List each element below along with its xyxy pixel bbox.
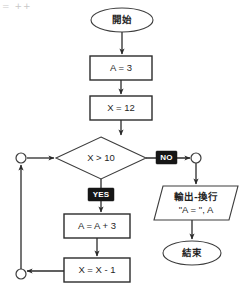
connector-loop-top-icon[interactable]: [16, 153, 26, 163]
start-label: 開始: [112, 14, 132, 25]
assign-x-label: X = 12: [107, 102, 135, 113]
increment-a-label: A = A + 3: [78, 220, 116, 231]
node-decrement-x[interactable]: X = X - 1: [64, 258, 130, 282]
branch-label-no: NO: [156, 151, 177, 164]
node-start[interactable]: 開始: [91, 8, 153, 32]
flowchart-svg: 開始 A = 3 X = 12 X > 10 A = A + 3 X = X -…: [0, 0, 246, 296]
decrement-x-label: X = X - 1: [78, 264, 115, 275]
end-label: 結束: [182, 247, 202, 258]
node-decision-x-gt-10[interactable]: X > 10: [56, 137, 146, 179]
decision-label: X > 10: [87, 152, 115, 163]
node-end[interactable]: 結束: [163, 241, 221, 265]
connector-loop-bottom-icon[interactable]: [16, 269, 26, 279]
assign-a-label: A = 3: [110, 62, 132, 73]
node-increment-a[interactable]: A = A + 3: [64, 214, 130, 238]
node-assign-x[interactable]: X = 12: [90, 96, 152, 120]
branch-label-yes: YES: [88, 188, 114, 201]
output-label-line1: 輸出-換行: [174, 191, 218, 202]
flowchart-canvas: = ++: [0, 0, 246, 296]
output-label-line2: "A = ", A: [179, 204, 214, 215]
yes-badge-label: YES: [93, 190, 110, 199]
partial-header-text: = ++: [2, 1, 31, 11]
connector-no-branch-icon[interactable]: [191, 153, 201, 163]
no-badge-label: NO: [160, 153, 172, 162]
node-output[interactable]: 輸出-換行 "A = ", A: [154, 186, 238, 220]
node-assign-a[interactable]: A = 3: [90, 56, 152, 80]
